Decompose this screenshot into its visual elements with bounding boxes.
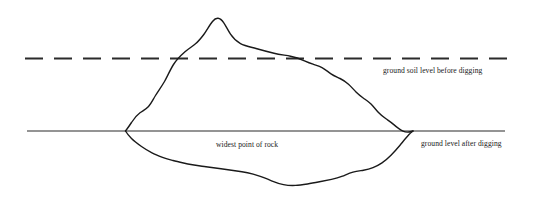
label-ground-soil-level-before-digging: ground soil level before digging (383, 67, 482, 75)
rock-excavation-diagram (0, 0, 540, 202)
label-ground-level-after-digging: ground level after digging (421, 140, 502, 148)
rock-outline-upper (126, 18, 414, 132)
diagram-canvas: ground soil level before digging ground … (0, 0, 540, 202)
label-widest-point-of-rock: widest point of rock (216, 141, 278, 149)
